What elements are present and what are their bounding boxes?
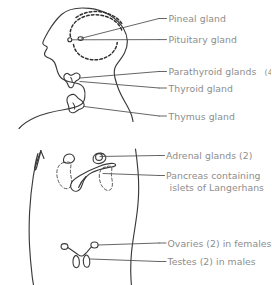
torso-view bbox=[29, 149, 139, 285]
label-pancreas-line2: islets of Langerhans bbox=[170, 182, 265, 193]
kidney-right-shape bbox=[99, 166, 112, 190]
label-pancreas-line1: Pancreas containing bbox=[166, 170, 261, 181]
label-pineal: Pineal gland bbox=[169, 13, 226, 24]
label-ovaries: Ovaries (2) in females bbox=[168, 238, 272, 249]
endocrine-system-diagram: Pineal gland Pituitary gland Parathyroid… bbox=[0, 0, 271, 285]
label-pituitary: Pituitary gland bbox=[169, 34, 238, 45]
label-group: Pineal gland Pituitary gland Parathyroid… bbox=[159, 13, 271, 267]
adrenal-cortex-detail bbox=[96, 154, 103, 161]
leader-parathyroid bbox=[80, 72, 159, 79]
leader-testes bbox=[91, 259, 160, 262]
leader-adrenal bbox=[100, 156, 159, 157]
kidney-left-shape bbox=[57, 162, 72, 189]
label-adrenal: Adrenal glands (2) bbox=[166, 150, 252, 161]
ovary-left-shape bbox=[61, 244, 68, 250]
label-testes: Testes (2) in males bbox=[167, 256, 256, 267]
leader-ovaries bbox=[98, 243, 159, 245]
thyroid-isthmus-detail bbox=[71, 78, 72, 82]
label-thymus: Thymus gland bbox=[168, 111, 235, 122]
label-parathyroid-count: (4) bbox=[265, 68, 271, 77]
uterus-fallopian-connector bbox=[68, 247, 91, 256]
testis-right-shape bbox=[83, 255, 89, 267]
pineal-gland-marker bbox=[68, 38, 72, 42]
label-parathyroid: Parathyroid glands (4) bbox=[169, 60, 272, 79]
thymus-gland-shape bbox=[67, 94, 84, 112]
leader-lines-torso bbox=[91, 156, 160, 262]
leader-thyroid bbox=[80, 82, 159, 89]
endocrine-diagram-canvas: Pineal gland Pituitary gland Parathyroid… bbox=[0, 0, 271, 285]
label-thyroid: Thyroid gland bbox=[168, 83, 233, 94]
face-profile-outline bbox=[19, 15, 85, 129]
label-parathyroid-main: Parathyroid glands bbox=[169, 66, 257, 77]
torso-right-outline bbox=[131, 149, 139, 285]
torso-left-outline bbox=[29, 151, 41, 285]
ovary-right-shape bbox=[91, 242, 98, 248]
cerebellum-dashed-outline bbox=[74, 43, 118, 60]
leader-thymus bbox=[84, 107, 159, 117]
pancreas-shape bbox=[71, 163, 116, 191]
testis-left-shape bbox=[73, 255, 79, 267]
adrenal-gland-right-shape bbox=[93, 153, 106, 164]
